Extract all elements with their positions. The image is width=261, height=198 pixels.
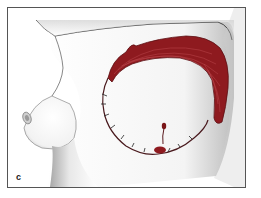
illustration-panel: c bbox=[7, 7, 246, 188]
breast bbox=[24, 96, 76, 149]
drain-exit bbox=[154, 147, 166, 154]
torso-illustration bbox=[8, 8, 245, 187]
panel-label: c bbox=[16, 172, 21, 182]
